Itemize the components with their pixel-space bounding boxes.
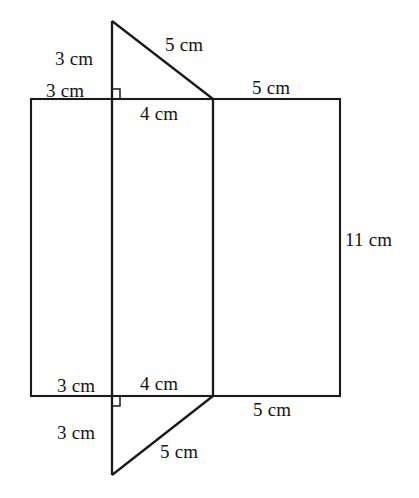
geometry-figure: 3 cm 5 cm 3 cm 5 cm 4 cm 11 cm 3 cm 4 cm…: [0, 0, 419, 498]
top-triangle-hypotenuse: [112, 21, 213, 99]
dimension-label-bottom-left-vertical: 3 cm: [57, 423, 95, 442]
dimension-label-bottom-hypotenuse: 5 cm: [160, 442, 198, 461]
dimension-label-top-rect-left: 3 cm: [46, 81, 84, 100]
dimension-label-top-base: 4 cm: [140, 104, 178, 123]
right-angle-marker-bottom-icon: [112, 397, 120, 406]
main-rectangle: [31, 99, 340, 396]
dimension-label-top-rect-right: 5 cm: [252, 78, 290, 97]
bottom-triangle-hypotenuse: [112, 396, 213, 475]
dimension-label-top-hypotenuse: 5 cm: [165, 35, 203, 54]
right-angle-marker-top-icon: [112, 89, 120, 98]
dimension-label-bottom-base: 4 cm: [140, 374, 178, 393]
dimension-label-top-left-vertical: 3 cm: [55, 49, 93, 68]
dimension-label-right-height: 11 cm: [345, 230, 392, 249]
dimension-label-bottom-rect-right: 5 cm: [253, 400, 291, 419]
dimension-label-bottom-rect-left: 3 cm: [57, 376, 95, 395]
